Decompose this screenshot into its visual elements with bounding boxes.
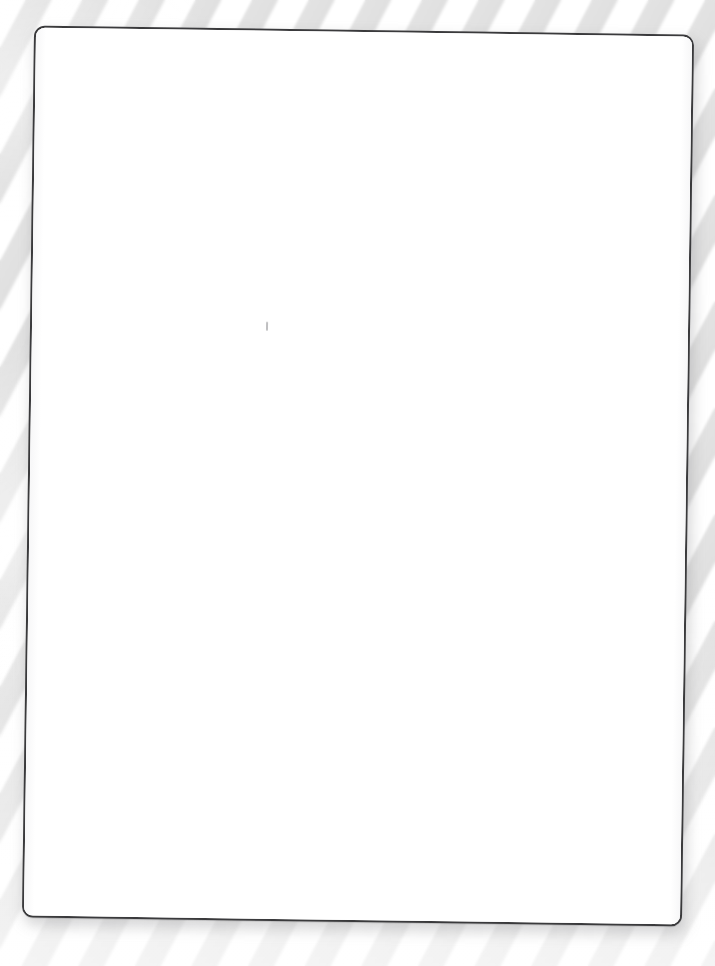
card-content-area	[24, 28, 692, 925]
card-container[interactable]	[22, 26, 694, 927]
card-surface	[24, 28, 692, 925]
blank-card[interactable]	[22, 26, 694, 927]
scene-root	[0, 0, 715, 966]
